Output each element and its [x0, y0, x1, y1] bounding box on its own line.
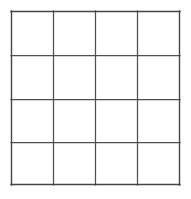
grid-cell-r1c1[interactable] [11, 11, 53, 55]
grid-cell-r3c1[interactable] [11, 99, 53, 142]
grid-cell-r4c2[interactable] [53, 142, 95, 185]
grid-figure [0, 0, 191, 199]
grid-cell-r1c3[interactable] [95, 11, 137, 55]
grid-cell-r2c3[interactable] [95, 55, 137, 99]
grid-cell-r3c3[interactable] [95, 99, 137, 142]
grid-cell-r2c4[interactable] [137, 55, 180, 99]
page-canvas [0, 0, 191, 199]
grid-cell-r3c2[interactable] [53, 99, 95, 142]
grid-cell-r4c4[interactable] [137, 142, 180, 185]
grid-cell-r1c2[interactable] [53, 11, 95, 55]
grid-cell-r3c4[interactable] [137, 99, 180, 142]
grid-cell-r2c1[interactable] [11, 55, 53, 99]
grid-cell-r2c2[interactable] [53, 55, 95, 99]
grid-cell-r1c4[interactable] [137, 11, 180, 55]
grid-svg [0, 0, 191, 199]
grid-cell-r4c1[interactable] [11, 142, 53, 185]
grid-cell-r4c3[interactable] [95, 142, 137, 185]
